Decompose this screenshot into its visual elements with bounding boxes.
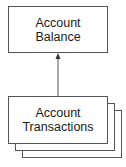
account-transactions-node: Account Transactions (8, 96, 108, 144)
arrowhead-icon (56, 53, 61, 59)
label-line: Transactions (22, 120, 93, 134)
label-line: Account (35, 106, 80, 120)
account-transactions-label: Account Transactions (9, 97, 107, 143)
